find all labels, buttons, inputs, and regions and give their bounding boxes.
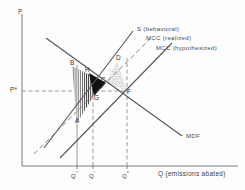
curve-label-supply-behavioral: S (behavioral) — [137, 26, 179, 32]
x-tick-sup-qdblprime: '' — [76, 171, 78, 176]
y-axis-label: P — [18, 9, 23, 15]
y-axis-tick-label-pstar: P* — [10, 87, 17, 93]
point-label-b: B — [70, 60, 74, 66]
curve-label-mcc-realized: MCC (realized) — [146, 35, 191, 41]
curve-label-mcc-hypothesized: MCC (hypothesized) — [156, 45, 217, 51]
point-label-c: C — [101, 77, 106, 83]
curve-mdf-line — [46, 38, 182, 136]
point-label-f: F — [127, 89, 131, 95]
point-label-a: A — [75, 118, 79, 124]
region-BHA-hatched — [72, 66, 96, 123]
shaded-regions — [72, 61, 127, 123]
x-tick-sup-qprime: ' — [94, 171, 95, 176]
diagram-canvas — [0, 0, 245, 190]
x-tick-label-qstar: Q* — [122, 172, 129, 179]
x-axis-label: Q (emissions abated) — [158, 171, 226, 177]
curve-label-mdf: MDF — [186, 133, 200, 139]
point-label-h: H — [85, 67, 90, 73]
point-label-g: G — [94, 95, 99, 101]
economics-diagram: P P* S (behavioral) MCC (realized) MCC (… — [0, 0, 245, 190]
x-tick-label-qprime: Q' — [89, 172, 95, 179]
point-label-d: D — [116, 55, 121, 61]
region-DCF-stippled — [106, 61, 127, 91]
x-tick-sup-qstar: * — [127, 171, 129, 176]
x-tick-label-qdblprime: Q'' — [71, 172, 78, 179]
curve-mcc-realized-line — [34, 39, 150, 154]
